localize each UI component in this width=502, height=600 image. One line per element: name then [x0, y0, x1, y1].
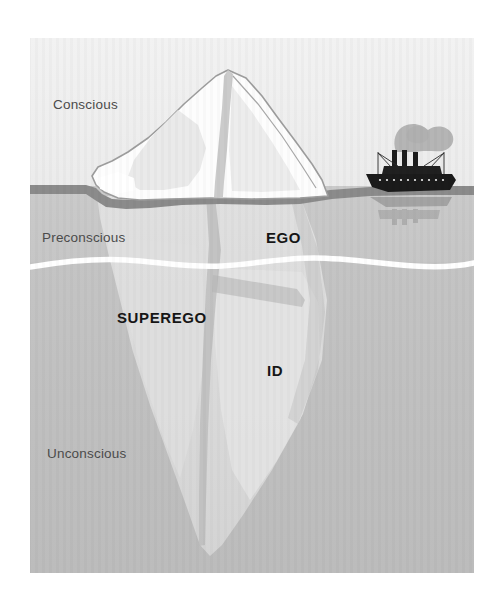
paper-texture-overlay: [30, 38, 474, 573]
figure-canvas: Conscious Preconscious Unconscious EGO S…: [0, 0, 502, 600]
iceberg-diagram: Conscious Preconscious Unconscious EGO S…: [0, 0, 502, 600]
illustration-frame: Conscious Preconscious Unconscious EGO S…: [30, 38, 474, 573]
label-preconscious: Preconscious: [42, 230, 125, 245]
label-conscious: Conscious: [53, 97, 118, 112]
label-ego: EGO: [266, 229, 301, 246]
label-superego: SUPEREGO: [117, 309, 207, 326]
label-id: ID: [267, 362, 283, 379]
label-unconscious: Unconscious: [47, 446, 127, 461]
